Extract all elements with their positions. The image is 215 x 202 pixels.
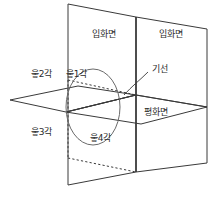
vertical-plane-right-outline — [136, 17, 207, 172]
label-quadrant-2: 읗2각 — [31, 70, 52, 79]
hidden-edge-lower — [68, 158, 136, 172]
label-quadrant-3: 읗3각 — [31, 128, 52, 137]
projection-quadrants-diagram: 입화면 입화면 평화면 기선 읗1각 읗2각 읗3각 읗4각 — [0, 0, 215, 202]
label-vertical-plane-right: 입화면 — [159, 30, 182, 39]
label-horizontal-plane: 평화면 — [144, 108, 167, 117]
label-vertical-plane-left: 입화면 — [92, 30, 115, 39]
label-base-line: 기선 — [152, 65, 168, 74]
label-quadrant-4: 읗4각 — [90, 134, 111, 143]
label-quadrant-1: 읗1각 — [66, 70, 87, 79]
base-line-edge — [66, 95, 136, 112]
base-line-edge-extension — [136, 95, 207, 107]
